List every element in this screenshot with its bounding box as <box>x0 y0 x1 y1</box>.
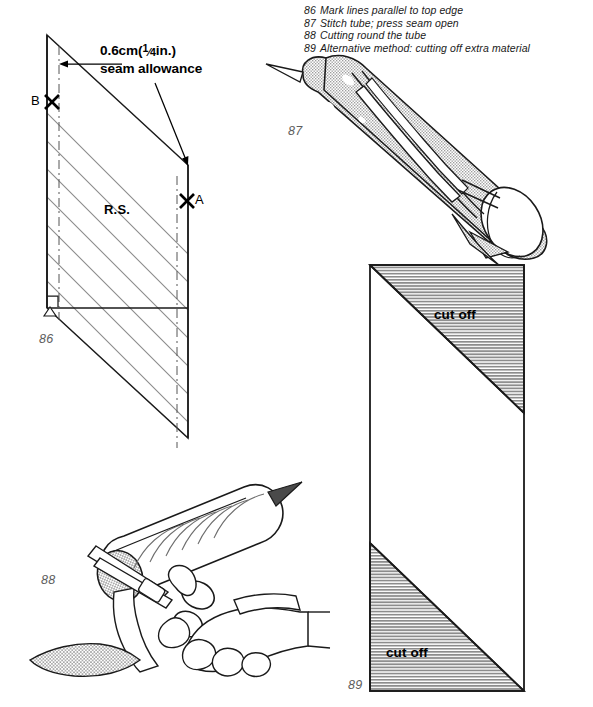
caption-text: Stitch tube; press seam open <box>320 17 590 30</box>
figure-number-88: 88 <box>41 573 56 587</box>
seam-allowance-annotation: 0.6cm(1⁄4in.) seam allowance <box>100 42 235 77</box>
technical-illustration-artwork <box>0 0 593 707</box>
fraction-numerator: 1 <box>142 42 148 54</box>
arm-edge-bottom <box>308 646 330 648</box>
figure-number-86: 86 <box>39 332 54 346</box>
caption-line: 87 Stitch tube; press seam open <box>304 17 590 30</box>
caption-number: 89 <box>304 42 320 55</box>
caption-text: Alternative method: cutting off extra ma… <box>320 42 590 55</box>
figure-89-cut-off-rectangle <box>370 265 524 691</box>
fraction-denominator: 4 <box>150 46 156 58</box>
caption-line: 88 Cutting round the tube <box>304 29 590 42</box>
illustration-page: 86 Mark lines parallel to top edge 87 St… <box>0 0 593 707</box>
caption-line: 89 Alternative method: cutting off extra… <box>304 42 590 55</box>
point-b-label: B <box>31 93 40 108</box>
cut-off-label-bottom: cut off <box>386 645 428 660</box>
bias-tail-left <box>266 64 303 82</box>
right-angle-marker <box>47 296 58 307</box>
seam-allowance-leader-diagonal <box>155 83 188 166</box>
fraction-quarter: 1⁄4 <box>142 43 155 58</box>
caption-text: Cutting round the tube <box>320 29 590 42</box>
caption-line: 86 Mark lines parallel to top edge <box>304 4 590 17</box>
seam-allowance-caption: seam allowance <box>100 61 202 76</box>
figure-number-87: 87 <box>288 124 303 138</box>
seam-allowance-imperial: in.) <box>156 43 176 58</box>
figure-88-cutting-tube <box>30 482 330 677</box>
seam-allowance-metric: 0.6cm( <box>100 43 142 58</box>
figure-caption-list: 86 Mark lines parallel to top edge 87 St… <box>304 4 590 54</box>
right-side-label: R.S. <box>104 202 130 217</box>
figure-87-stitched-tube <box>266 56 556 269</box>
mark-a-cross <box>180 194 194 208</box>
caption-number: 87 <box>304 17 320 30</box>
figure-number-89: 89 <box>348 678 363 692</box>
point-a-label: A <box>195 192 204 207</box>
caption-number: 86 <box>304 4 320 17</box>
caption-text: Mark lines parallel to top edge <box>320 4 590 17</box>
caption-number: 88 <box>304 29 320 42</box>
fabric-outline <box>47 35 188 438</box>
cut-off-label-top: cut off <box>434 307 476 322</box>
